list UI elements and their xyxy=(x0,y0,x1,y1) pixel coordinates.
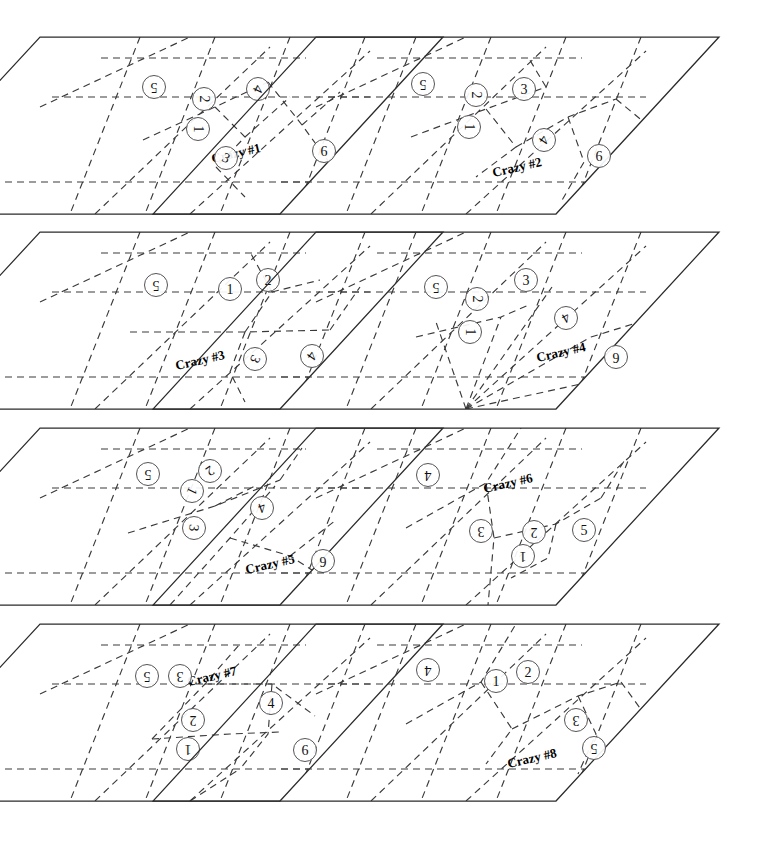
crazy-label: Crazy #4 xyxy=(535,339,588,365)
marker-2[interactable]: 2 xyxy=(465,84,488,107)
dashed-grid xyxy=(281,232,719,409)
marker-number: 6 xyxy=(596,149,603,164)
marker-5[interactable]: 5 xyxy=(137,463,160,486)
marker-3[interactable]: 3 xyxy=(515,269,538,292)
marker-number: 5 xyxy=(151,80,158,95)
marker-number: 5 xyxy=(144,669,151,684)
marker-3[interactable]: 3 xyxy=(513,78,536,101)
marker-3[interactable]: 3 xyxy=(215,147,238,170)
dashed-line xyxy=(496,37,566,214)
marker-number: 5 xyxy=(145,467,152,482)
marker-number: 4 xyxy=(425,468,432,483)
marker-number: 3 xyxy=(186,524,202,532)
crazy-label-text: Crazy #2 xyxy=(491,154,543,180)
dashed-line xyxy=(566,67,719,214)
marker-number: 2 xyxy=(469,92,484,99)
marker-5[interactable]: 5 xyxy=(412,73,435,96)
dashed-line xyxy=(578,696,596,774)
marker-number: 2 xyxy=(470,296,485,303)
marker-5[interactable]: 5 xyxy=(573,519,596,542)
dashed-grid xyxy=(281,37,719,214)
marker-1[interactable]: 1 xyxy=(177,738,200,761)
marker-4[interactable]: 4 xyxy=(260,692,283,715)
marker-4[interactable]: 4 xyxy=(417,659,440,682)
dashed-line xyxy=(220,232,290,409)
marker-2[interactable]: 2 xyxy=(523,521,546,544)
marker-5[interactable]: 5 xyxy=(145,274,168,297)
marker-2[interactable]: 2 xyxy=(193,88,216,111)
dashed-line xyxy=(421,232,491,409)
marker-number: 5 xyxy=(153,278,160,293)
marker-1[interactable]: 1 xyxy=(187,118,210,141)
dashed-line xyxy=(571,37,641,214)
marker-number: 2 xyxy=(525,665,532,680)
marker-number: 1 xyxy=(493,674,500,689)
marker-3[interactable]: 3 xyxy=(565,709,588,732)
marker-6[interactable]: 6 xyxy=(588,145,611,168)
marker-1[interactable]: 1 xyxy=(485,670,508,693)
dashed-line xyxy=(95,242,270,409)
marker-1[interactable]: 1 xyxy=(459,321,482,344)
dashed-line xyxy=(566,262,719,409)
marker-2[interactable]: 2 xyxy=(517,661,540,684)
marker-1[interactable]: 1 xyxy=(458,116,481,139)
marker-3[interactable]: 3 xyxy=(183,517,206,540)
panel-crazy-8: Crazy #841235 xyxy=(312,620,723,805)
dashed-line xyxy=(215,486,255,506)
marker-4[interactable]: 4 xyxy=(533,129,556,152)
dashed-line xyxy=(496,624,566,801)
marker-1[interactable]: 1 xyxy=(512,545,535,568)
dashed-line xyxy=(421,428,491,605)
marker-number: 3 xyxy=(573,713,580,728)
dashed-line xyxy=(70,37,140,214)
marker-number: 1 xyxy=(462,124,477,131)
dashed-line xyxy=(371,438,546,605)
crazy-label-text: Crazy #8 xyxy=(506,745,559,771)
marker-5[interactable]: 5 xyxy=(425,276,448,299)
marker-2[interactable]: 2 xyxy=(257,269,280,292)
marker-number: 5 xyxy=(591,741,598,756)
marker-3[interactable]: 3 xyxy=(169,665,192,688)
marker-5[interactable]: 5 xyxy=(143,76,166,99)
dashed-line xyxy=(346,37,416,214)
marker-2[interactable]: 2 xyxy=(466,288,489,311)
marker-number: 6 xyxy=(613,350,620,365)
dashed-line xyxy=(70,624,140,801)
marker-4[interactable]: 4 xyxy=(247,78,270,101)
dashed-grid xyxy=(281,428,719,605)
panel-crazy-6: Crazy #643215 xyxy=(312,424,723,609)
marker-5[interactable]: 5 xyxy=(136,665,159,688)
marker-1[interactable]: 1 xyxy=(181,480,204,503)
dashed-line xyxy=(70,232,140,409)
crazy-label: Crazy #6 xyxy=(482,470,535,496)
dashed-line xyxy=(220,37,290,214)
marker-number: 4 xyxy=(268,696,275,711)
marker-number: 2 xyxy=(197,96,212,103)
crazy-tilings-figure: Crazy #1521436Crazy #2523146Crazy #35123… xyxy=(0,0,759,850)
marker-number: 3 xyxy=(177,669,184,684)
marker-3[interactable]: 3 xyxy=(470,520,493,543)
marker-number: 1 xyxy=(520,549,527,564)
marker-number: 3 xyxy=(478,524,485,539)
crazy-label-text: Crazy #3 xyxy=(174,347,227,373)
crazy-label-text: Crazy #4 xyxy=(535,339,588,365)
dashed-line xyxy=(496,428,566,605)
crazy-label: Crazy #7 xyxy=(186,663,239,689)
dashed-line xyxy=(216,167,245,197)
marker-1[interactable]: 1 xyxy=(219,278,242,301)
marker-4[interactable]: 4 xyxy=(251,497,274,520)
marker-number: 2 xyxy=(265,273,272,288)
crazy-label-text: Crazy #6 xyxy=(482,470,535,496)
marker-2[interactable]: 2 xyxy=(199,460,222,483)
dashed-line xyxy=(571,428,641,605)
dashed-line xyxy=(566,654,719,801)
marker-3[interactable]: 3 xyxy=(244,348,267,371)
marker-5[interactable]: 5 xyxy=(583,737,606,760)
marker-6[interactable]: 6 xyxy=(605,346,628,369)
marker-2[interactable]: 2 xyxy=(182,709,205,732)
marker-4[interactable]: 4 xyxy=(555,307,578,330)
dashed-line xyxy=(421,624,491,801)
marker-4[interactable]: 4 xyxy=(417,464,440,487)
dashed-line xyxy=(230,332,245,402)
marker-number: 3 xyxy=(521,82,528,97)
